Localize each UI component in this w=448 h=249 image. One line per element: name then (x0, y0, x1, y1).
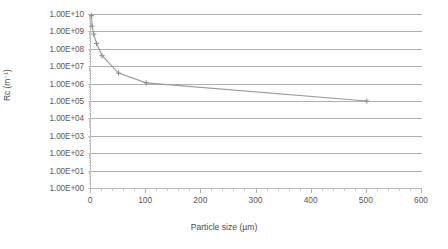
x-axis-minor-tick (278, 189, 279, 191)
x-axis-tick-mark (311, 189, 312, 193)
x-axis-minor-tick (322, 189, 323, 191)
y-axis-tick-label: 1.00E+08 (50, 44, 85, 53)
data-point-marker (94, 41, 99, 46)
x-axis-tick-label: 600 (414, 195, 428, 205)
data-point-marker (90, 24, 95, 29)
x-axis-tick-label: 0 (88, 195, 93, 205)
x-axis-minor-tick (189, 189, 190, 191)
x-axis-minor-tick (355, 189, 356, 191)
x-axis-minor-tick (101, 189, 102, 191)
x-axis-minor-tick (156, 189, 157, 191)
data-point-marker (144, 80, 149, 85)
plot-area (90, 14, 422, 188)
x-axis-minor-tick (178, 189, 179, 191)
y-axis-title: Rᴄ (m⁻¹) (2, 41, 12, 101)
y-axis-tick-label: 1.00E+10 (50, 10, 85, 19)
x-axis-minor-tick (333, 189, 334, 191)
chart-container: 1.00E+101.00E+091.00E+081.00E+071.00E+06… (0, 0, 448, 249)
x-axis-minor-tick (300, 189, 301, 191)
x-axis-tick-label: 400 (304, 195, 318, 205)
x-axis-tick-label: 100 (138, 195, 152, 205)
x-axis-tick-label: 300 (249, 195, 263, 205)
x-axis-minor-tick (377, 189, 378, 191)
y-axis-tick-label: 1.00E+05 (50, 97, 85, 106)
x-axis-minor-tick (222, 189, 223, 191)
x-axis-minor-tick (399, 189, 400, 191)
x-axis-tick-label: 200 (193, 195, 207, 205)
x-axis-tick-mark (90, 189, 91, 193)
x-axis-minor-tick (134, 189, 135, 191)
x-axis-minor-tick (344, 189, 345, 191)
x-axis-minor-tick (233, 189, 234, 191)
y-axis-tick-label: 1.00E+07 (50, 62, 85, 71)
x-axis-minor-tick (123, 189, 124, 191)
x-axis-tick-mark (145, 189, 146, 193)
x-axis-tick-mark (256, 189, 257, 193)
y-axis-tick-label: 1.00E+06 (50, 79, 85, 88)
x-axis-minor-tick (112, 189, 113, 191)
x-axis-minor-tick (388, 189, 389, 191)
x-axis-tick-mark (421, 189, 422, 193)
series-line (92, 16, 367, 101)
x-axis-minor-tick (289, 189, 290, 191)
x-axis-minor-tick (267, 189, 268, 191)
x-axis-tick-mark (200, 189, 201, 193)
x-axis-minor-tick (244, 189, 245, 191)
x-axis-tick-label: 500 (359, 195, 373, 205)
x-axis-minor-tick (211, 189, 212, 191)
y-axis-tick-label: 1.00E+01 (50, 166, 85, 175)
x-axis-title: Particle size (µm) (0, 222, 448, 232)
y-axis-tick-label: 1.00E+03 (50, 131, 85, 140)
y-axis-tick-label: 1.00E+09 (50, 27, 85, 36)
y-axis-tick-labels: 1.00E+101.00E+091.00E+081.00E+071.00E+06… (0, 0, 88, 249)
data-series-layer (91, 14, 422, 188)
data-point-marker (364, 98, 369, 103)
x-axis-minor-tick (167, 189, 168, 191)
x-axis-minor-tick (410, 189, 411, 191)
y-axis-tick-label: 1.00E+00 (50, 184, 85, 193)
y-axis-tick-label: 1.00E+02 (50, 149, 85, 158)
y-axis-tick-label: 1.00E+04 (50, 114, 85, 123)
x-axis-tick-mark (366, 189, 367, 193)
data-point-marker (91, 31, 96, 36)
